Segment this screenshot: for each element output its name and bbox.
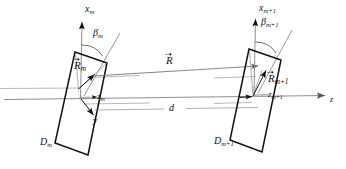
geometry-diagram: xm βm Rm zm y Dm R d xm+1 βm+1 Rm+1 zm+1…: [0, 0, 346, 169]
label-x-m: xm: [85, 4, 94, 15]
right-vector-Rm1: [253, 71, 266, 97]
label-beta-m: βm: [93, 28, 103, 39]
label-vector-R-m-plus-1: Rm+1: [268, 73, 289, 86]
separation-vector-R: [93, 66, 258, 76]
left-local-z-axis: [80, 97, 97, 98]
label-vector-R: R: [166, 55, 173, 66]
distance-d-line: [95, 108, 258, 111]
label-z-m: zm: [97, 92, 105, 103]
right-x-axis: [254, 19, 256, 96]
label-main-z-axis: z: [330, 96, 333, 104]
label-vector-R-m: Rm: [74, 60, 86, 73]
label-y-axis: y: [93, 116, 97, 125]
left-y-axis: [81, 99, 94, 115]
left-angle-arc: [82, 45, 103, 56]
right-angle-arc: [255, 42, 276, 53]
label-distance-d: d: [169, 103, 174, 113]
label-plane-D-m: Dm: [40, 137, 52, 148]
label-plane-D-m-plus-1: Dm+1: [214, 136, 234, 147]
label-beta-m-plus-1: βm+1: [261, 17, 279, 28]
label-x-m-plus-1: xm+1: [259, 3, 276, 14]
label-z-m-plus-1: zm+1: [268, 90, 283, 101]
